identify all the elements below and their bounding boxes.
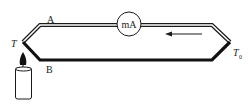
cold-junction-label: T 0 — [233, 47, 242, 60]
wire-b-label: B — [46, 64, 53, 75]
svg-text:0: 0 — [239, 54, 242, 60]
current-arrow-icon — [165, 32, 202, 37]
milliammeter: mA — [117, 12, 141, 36]
wire-b — [23, 42, 230, 60]
wire-a-label: A — [47, 14, 55, 25]
candle-icon — [16, 52, 32, 99]
hot-junction-label: T — [11, 38, 18, 49]
thermocouple-diagram: mA A B T T 0 — [0, 0, 249, 104]
meter-label: mA — [122, 19, 138, 30]
